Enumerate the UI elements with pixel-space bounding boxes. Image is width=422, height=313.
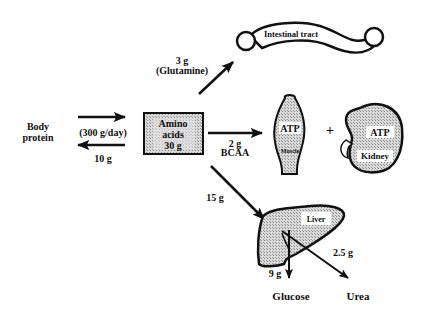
kidney-label: Kidney bbox=[361, 151, 390, 161]
urea-label: Urea bbox=[346, 290, 370, 302]
amino-acids-line2: acids bbox=[162, 129, 184, 140]
body-protein-line1: Body bbox=[27, 121, 49, 132]
liver-flow-label: 15 g bbox=[206, 192, 224, 203]
kidney-shape bbox=[346, 104, 402, 172]
glucose-label: Glucose bbox=[272, 290, 309, 302]
amino-acids-line1: Amino bbox=[159, 118, 188, 129]
plus-sign: + bbox=[326, 123, 334, 138]
amino-acids-node: Amino acids 30 g bbox=[144, 113, 203, 154]
glutamine-label: (Glutamine) bbox=[156, 65, 208, 77]
muscle-node: ATP Muscle bbox=[274, 95, 304, 174]
intestine-end-left bbox=[237, 32, 255, 50]
flow-label-10g: 10 g bbox=[94, 153, 112, 164]
amino-acids-line3: 30 g bbox=[164, 140, 182, 151]
urea-flow-label: 2.5 g bbox=[333, 247, 353, 258]
amino-acid-metabolism-diagram: Body protein (300 g/day) 10 g Amino acid… bbox=[0, 0, 422, 313]
muscle-shape bbox=[274, 95, 304, 174]
muscle-label: Muscle bbox=[281, 148, 300, 154]
glucose-flow-label: 9 g bbox=[269, 268, 282, 279]
body-protein-line2: protein bbox=[23, 132, 54, 143]
liver-node: Liver bbox=[258, 205, 344, 266]
muscle-atp: ATP bbox=[280, 123, 299, 134]
bcaa-label: BCAA bbox=[221, 147, 250, 158]
intestinal-tract-label: Intestinal tract bbox=[264, 29, 318, 39]
flow-label-300g-day: (300 g/day) bbox=[79, 127, 127, 139]
intestine-end-right bbox=[365, 28, 383, 46]
body-protein-node: Body protein bbox=[23, 121, 54, 143]
liver-label: Liver bbox=[307, 215, 326, 224]
kidney-atp: ATP bbox=[370, 127, 389, 138]
intestinal-tract-node: Intestinal tract bbox=[237, 23, 383, 53]
kidney-node: ATP Kidney bbox=[341, 104, 402, 172]
